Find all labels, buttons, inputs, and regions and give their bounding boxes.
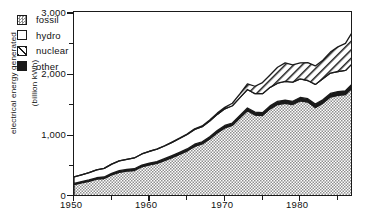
y-tick-label-1000: 1,000 bbox=[41, 129, 66, 140]
white-swatch-icon bbox=[17, 30, 27, 40]
legend-item-fossil: fossil bbox=[17, 13, 69, 26]
legend-label-nuclear: nuclear bbox=[36, 45, 69, 56]
crosshatch-swatch-icon bbox=[17, 15, 27, 25]
stacked-area-svg bbox=[74, 12, 352, 196]
chart-figure: electrical energy generated (billion kWh… bbox=[0, 0, 373, 222]
x-axis-tick-labels: 1950 1960 1970 1980 bbox=[0, 199, 373, 219]
x-tick-label-1960: 1960 bbox=[135, 199, 157, 210]
chart-legend: fossil hydro nuclear other bbox=[17, 13, 69, 75]
solid-black-swatch-icon bbox=[17, 61, 27, 71]
legend-item-other: other bbox=[17, 60, 69, 73]
diagonal-hatch-swatch-icon bbox=[17, 46, 27, 56]
x-tick-label-1950: 1950 bbox=[60, 199, 82, 210]
legend-item-nuclear: nuclear bbox=[17, 44, 69, 57]
legend-label-other: other bbox=[36, 61, 59, 72]
x-tick-label-1970: 1970 bbox=[211, 199, 233, 210]
legend-label-fossil: fossil bbox=[36, 14, 59, 25]
x-tick-label-1980: 1980 bbox=[286, 199, 308, 210]
plot-area bbox=[73, 11, 352, 196]
legend-label-hydro: hydro bbox=[36, 30, 61, 41]
legend-item-hydro: hydro bbox=[17, 29, 69, 42]
